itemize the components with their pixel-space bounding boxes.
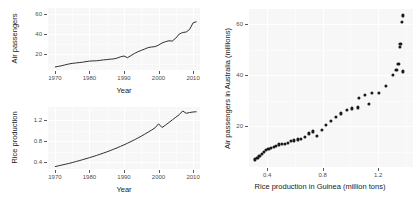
x-tick-mark	[323, 168, 324, 171]
plot-air-passengers-vs-rice-scatter: Air passengers in Australia (millions) 2…	[205, 0, 419, 198]
x-tick-mark	[378, 168, 379, 171]
plot-air-passengers-timeseries: Air passengers 204060 197019801990200020…	[0, 0, 205, 99]
line-series	[0, 0, 205, 99]
scatter-point	[329, 119, 332, 122]
scatter-point	[334, 115, 337, 118]
scatter-point	[384, 84, 387, 87]
scatter-point	[351, 107, 354, 110]
scatter-point	[320, 129, 323, 132]
scatter-point	[391, 74, 394, 77]
scatter-point	[397, 62, 400, 65]
scatter-point	[325, 123, 328, 126]
y-tick-label: 40	[219, 72, 243, 79]
scatter-point	[401, 20, 404, 23]
scatter-points	[249, 9, 413, 167]
scatter-point	[303, 135, 306, 138]
x-tick-label: 0.4	[253, 172, 281, 179]
x-tick-mark	[267, 168, 268, 171]
scatter-point	[300, 137, 303, 140]
series-path	[55, 111, 197, 167]
series-path	[55, 22, 197, 67]
scatter-point	[340, 112, 343, 115]
plot-rice-production-timeseries: Rice production 0.40.81.2 19701980199020…	[0, 99, 205, 198]
x-tick-label: 0.8	[309, 172, 337, 179]
scatter-point	[398, 45, 401, 48]
y-axis-title: Air passengers in Australia (millions)	[223, 10, 232, 168]
line-series	[0, 99, 205, 198]
y-tick-label: 60	[219, 21, 243, 28]
scatter-point	[377, 92, 380, 95]
scatter-point	[367, 102, 370, 105]
scatter-point	[363, 93, 366, 96]
scatter-point	[401, 70, 404, 73]
scatter-point	[395, 69, 398, 72]
scatter-point	[357, 97, 360, 100]
y-tick-mark	[245, 75, 248, 76]
scatter-point	[356, 106, 359, 109]
scatter-point	[399, 42, 402, 45]
figure-canvas: Air passengers 204060 197019801990200020…	[0, 0, 419, 198]
y-tick-mark	[245, 24, 248, 25]
x-tick-label: 1.2	[364, 172, 392, 179]
scatter-point	[316, 134, 319, 137]
scatter-point	[370, 91, 373, 94]
scatter-point	[401, 14, 404, 17]
x-axis-title: Rice production in Guinea (million tons)	[225, 182, 415, 191]
y-tick-label: 20	[219, 123, 243, 130]
scatter-point	[311, 130, 314, 133]
scatter-point	[345, 108, 348, 111]
y-tick-mark	[245, 126, 248, 127]
scatter-point	[307, 132, 310, 135]
